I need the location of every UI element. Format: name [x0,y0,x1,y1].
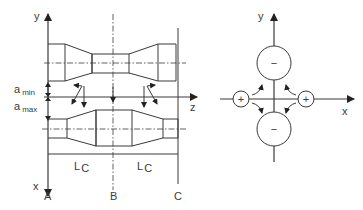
section-b-label: B [110,190,117,202]
force-arrows-right [144,85,157,107]
svg-text:−: − [271,123,277,135]
z-axis-label: z [190,101,196,113]
svg-text:+: + [238,93,244,105]
force-arrows-left [72,85,84,107]
a-max-label: amax [14,100,37,114]
diagram-canvas: y x z amin amax [0,0,363,210]
electrode-cross-section: y x z amin amax [14,10,197,202]
section-c-label: C [174,190,182,202]
svg-text:+: + [303,93,309,105]
y-axis-label: y [34,10,40,22]
y-axis-label-right: y [258,10,264,22]
positive-pole-right: + [298,91,314,107]
lc-label-right: LC [137,160,152,174]
quadrupole-field-diagram: y x − − + + [220,10,354,162]
svg-text:−: − [271,57,277,69]
lower-electrode [42,110,186,154]
negative-pole-bottom: − [257,112,291,146]
positive-pole-left: + [233,91,249,107]
upper-electrode [44,44,186,81]
x-axis-label-right: x [342,105,348,117]
x-axis-label: x [33,180,39,192]
lc-label-left: LC [74,160,89,174]
section-a-label: A [44,190,52,202]
a-min-label: amin [14,83,35,97]
negative-pole-top: − [257,46,291,80]
